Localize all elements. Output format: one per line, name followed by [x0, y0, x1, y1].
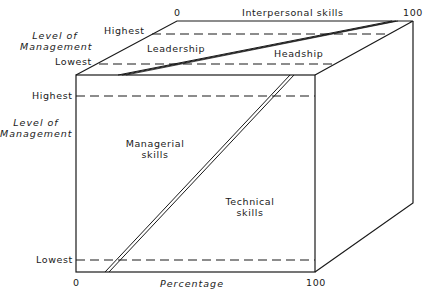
managerial-skills-label: Managerial skills	[115, 138, 195, 160]
top-axis-hundred: 100	[403, 7, 423, 18]
bottom-axis-hundred: 100	[306, 277, 326, 288]
bottom-axis-zero: 0	[73, 277, 80, 288]
technical-line1: Technical	[215, 196, 285, 207]
front-level-axis-label: Level of Management	[0, 117, 72, 139]
managerial-line1: Managerial	[115, 138, 195, 149]
top-level-axis-label: Level of Management	[20, 30, 90, 52]
managerial-line2: skills	[115, 149, 195, 160]
bottom-axis-title: Percentage	[160, 278, 224, 289]
right-face-edges	[315, 21, 413, 272]
top-lowest-label: Lowest	[55, 56, 92, 67]
top-highest-label: Highest	[104, 25, 145, 36]
front-lowest-label: Lowest	[36, 254, 73, 265]
front-divider-line-b	[109, 75, 294, 272]
technical-line2: skills	[215, 207, 285, 218]
top-axis-title: Interpersonal skills	[242, 7, 344, 18]
front-highest-label: Highest	[32, 90, 73, 101]
top-level-line2: Management	[20, 41, 90, 52]
front-divider-line-a	[105, 75, 290, 272]
top-axis-zero: 0	[174, 7, 181, 18]
top-level-line1: Level of	[20, 30, 90, 41]
front-level-line2: Management	[0, 128, 72, 139]
front-level-line1: Level of	[0, 117, 72, 128]
leadership-region-label: Leadership	[147, 43, 205, 54]
headship-region-label: Headship	[274, 48, 323, 59]
technical-skills-label: Technical skills	[215, 196, 285, 218]
front-face	[76, 75, 315, 272]
